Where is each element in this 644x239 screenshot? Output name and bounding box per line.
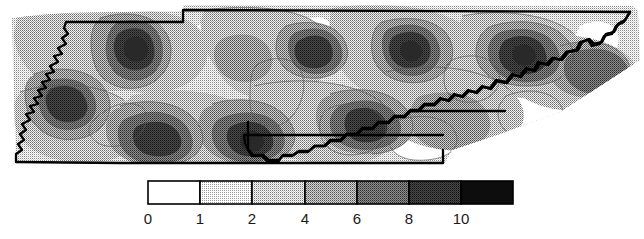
legend-swatch-0[interactable]	[148, 181, 200, 204]
legend-bar	[148, 181, 513, 204]
legend-swatch-6[interactable]	[461, 181, 513, 204]
legend-tick-4: 6	[353, 210, 361, 227]
legend-tick-5: 8	[405, 210, 413, 227]
legend-tick-0: 0	[144, 210, 152, 227]
legend-tick-6: 10	[453, 210, 470, 227]
legend-swatch-5[interactable]	[409, 181, 461, 204]
legend-swatch-2[interactable]	[252, 181, 305, 204]
legend-swatch-1[interactable]	[200, 181, 252, 204]
legend-swatch-4[interactable]	[357, 181, 409, 204]
figure-container: 0 1 2 4 6 8 10	[0, 0, 644, 239]
legend-tick-3: 4	[301, 210, 309, 227]
legend-swatch-3[interactable]	[305, 181, 357, 204]
legend-tick-labels: 0 1 2 4 6 8 10	[144, 210, 470, 227]
legend: 0 1 2 4 6 8 10	[0, 166, 644, 239]
legend-tick-2: 2	[248, 210, 256, 227]
legend-tick-1: 1	[196, 210, 204, 227]
